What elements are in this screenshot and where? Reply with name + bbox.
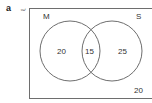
- region-s-only: 25: [118, 47, 127, 56]
- set-m-label: M: [43, 12, 50, 21]
- set-s-label: S: [136, 12, 141, 21]
- region-m-only: 20: [57, 47, 66, 56]
- venn-diagram: [0, 0, 152, 103]
- region-intersection: 15: [85, 47, 94, 56]
- region-outside: 20: [134, 86, 143, 95]
